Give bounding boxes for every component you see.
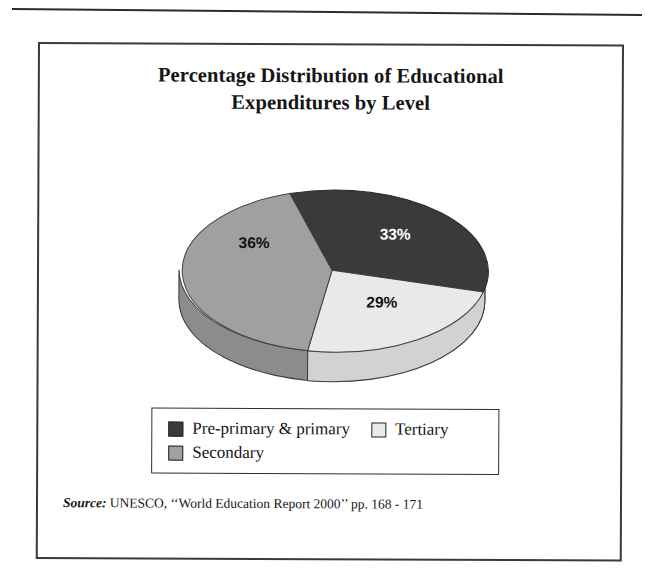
- pie-label-secondary: 36%: [239, 234, 270, 251]
- legend-label-secondary: Secondary: [192, 443, 264, 463]
- pie-label-pre-primary-primary: 33%: [380, 225, 411, 242]
- source-label: Source:: [63, 495, 107, 510]
- source-text: UNESCO, ‘‘World Education Report 2000’’ …: [106, 495, 423, 511]
- legend-swatch-secondary: [168, 445, 183, 460]
- legend-swatch-pre-primary-primary: [168, 421, 183, 436]
- source-note: Source: UNESCO, ‘‘World Education Report…: [63, 494, 603, 514]
- pie-chart-svg: 33% 29% 36%: [167, 155, 498, 386]
- chart-legend: Pre-primary & primary Tertiary Secondary: [151, 407, 499, 475]
- legend-item-pre-primary-primary: Pre-primary & primary: [168, 419, 350, 440]
- chart-title-line-2: Expenditures by Level: [40, 88, 622, 118]
- figure-frame: Percentage Distribution of Educational E…: [36, 42, 624, 562]
- page-top-rule: [12, 8, 642, 16]
- pie-chart: 33% 29% 36%: [167, 155, 498, 386]
- legend-row: Secondary: [168, 441, 490, 466]
- legend-row: Pre-primary & primary Tertiary: [168, 417, 490, 442]
- chart-title: Percentage Distribution of Educational E…: [40, 61, 622, 118]
- pie-label-tertiary: 29%: [366, 293, 397, 310]
- legend-swatch-tertiary: [371, 422, 386, 437]
- legend-item-tertiary: Tertiary: [371, 419, 449, 439]
- chart-title-line-1: Percentage Distribution of Educational: [40, 61, 622, 91]
- legend-rows: Pre-primary & primary Tertiary Secondary: [168, 417, 490, 466]
- legend-label-pre-primary-primary: Pre-primary & primary: [192, 419, 350, 440]
- legend-label-tertiary: Tertiary: [395, 420, 449, 440]
- legend-item-secondary: Secondary: [168, 443, 264, 463]
